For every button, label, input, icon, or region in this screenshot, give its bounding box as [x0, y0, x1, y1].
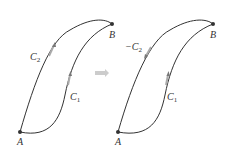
left-diagram: A B C2 C1 — [16, 20, 115, 147]
curve-c1-right-label: C1 — [167, 91, 178, 104]
c1-right-arrowhead-icon — [167, 71, 171, 76]
point-b-left-dot — [110, 22, 114, 26]
point-b-left-label: B — [109, 29, 115, 40]
curve-c2-left-label: C2 — [30, 51, 41, 64]
curve-c2-left — [20, 20, 112, 132]
curve-neg-c2-right-label: −C2 — [125, 41, 142, 54]
implies-arrow-icon — [95, 69, 109, 77]
point-b-right-label: B — [210, 29, 216, 40]
curve-c1-left — [20, 24, 112, 133]
curve-c1-left-label: C1 — [70, 91, 81, 104]
right-diagram: A B −C2 C1 — [114, 20, 216, 147]
point-a-left-label: A — [16, 136, 24, 147]
point-b-right-dot — [211, 22, 215, 26]
point-a-right-dot — [116, 130, 120, 134]
path-reversal-diagram: A B C2 C1 A B −C2 C1 — [0, 0, 225, 150]
curve-neg-c2-right — [118, 20, 213, 132]
point-a-right-label: A — [114, 136, 122, 147]
point-a-left-dot — [18, 130, 22, 134]
c1-direction-arrow — [68, 75, 70, 85]
